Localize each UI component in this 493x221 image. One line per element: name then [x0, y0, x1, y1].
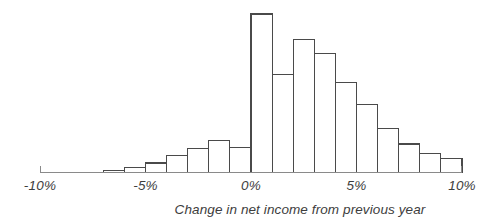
x-tick-label: 10%: [448, 178, 476, 193]
histogram-bar: [209, 141, 230, 173]
x-axis-tick-labels: -10%-5%0%5%10%: [24, 178, 476, 193]
histogram-bars: [103, 14, 462, 173]
histogram-bar: [441, 158, 462, 172]
x-tick-label: -10%: [24, 178, 56, 193]
histogram-bar: [378, 128, 399, 172]
histogram-bar: [146, 163, 167, 173]
histogram-bar: [335, 82, 356, 172]
histogram-bar: [230, 147, 251, 172]
x-tick-label: -5%: [133, 178, 158, 193]
histogram-bar: [399, 144, 420, 173]
x-tick-label: 0%: [241, 178, 261, 193]
histogram-bar: [293, 39, 314, 172]
histogram-bar: [357, 104, 378, 172]
histogram-svg: -10%-5%0%5%10% Change in net income from…: [0, 0, 493, 221]
histogram-figure: -10%-5%0%5%10% Change in net income from…: [0, 0, 493, 221]
histogram-bar: [314, 54, 335, 173]
histogram-bar: [188, 149, 209, 173]
histogram-bar: [420, 153, 441, 172]
x-tick-label: 5%: [347, 178, 367, 193]
histogram-bar: [124, 168, 145, 173]
histogram-bar: [251, 14, 272, 173]
histogram-bar: [167, 155, 188, 172]
histogram-bar: [272, 74, 293, 172]
x-axis-caption: Change in net income from previous year: [175, 202, 426, 217]
